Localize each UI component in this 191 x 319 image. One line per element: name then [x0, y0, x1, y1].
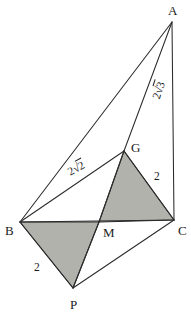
shaded-faces-group	[20, 151, 174, 288]
shaded-triangle-GMC	[99, 151, 174, 222]
vertex-label-C: C	[178, 224, 187, 237]
length-label-BP: 2	[34, 262, 40, 274]
vertex-label-A: A	[168, 4, 177, 17]
length-label-GC: 2	[154, 171, 160, 183]
geometry-figure: A B C G M P 2√3 2√2 2 2	[0, 0, 191, 319]
edge-A-C	[172, 22, 174, 220]
vertex-label-P: P	[70, 298, 77, 311]
geometry-canvas	[0, 0, 191, 319]
vertex-label-G: G	[131, 141, 140, 154]
vertex-label-B: B	[5, 224, 14, 237]
vertex-label-M: M	[103, 226, 115, 239]
